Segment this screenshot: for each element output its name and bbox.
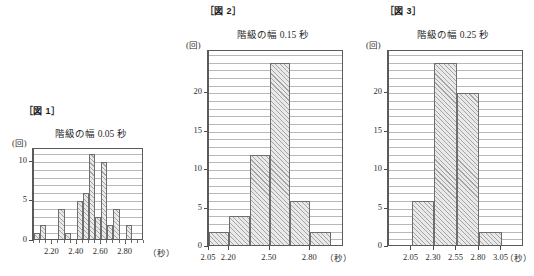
x-axis-tick (208, 246, 209, 250)
x-axis-minor-tick (76, 240, 77, 243)
x-axis-tick (433, 246, 434, 250)
x-axis-tick-label: 2.50 (253, 252, 285, 262)
histogram-bar (290, 201, 310, 246)
y-axis-tick-label: 0 (5, 234, 27, 244)
figure-2-y-unit: (回) (186, 38, 201, 50)
figure-1-x-unit: （秒） (148, 246, 175, 258)
histogram-bar (270, 63, 290, 246)
y-axis-tick-label: 5 (360, 202, 382, 212)
histogram-bar (40, 225, 46, 240)
figure-2-plot (208, 50, 343, 246)
x-axis-minor-tick (33, 240, 34, 243)
gridline (389, 55, 522, 56)
gridline (34, 154, 142, 155)
gridline (34, 185, 142, 186)
x-axis-tick (478, 246, 479, 250)
x-axis-minor-tick (100, 240, 101, 243)
figure-1-label: ［図 1］ (24, 104, 60, 117)
y-axis-line (207, 50, 208, 246)
histogram-bar (250, 155, 270, 246)
x-axis-minor-tick (131, 240, 132, 243)
figure-3-plot (388, 50, 523, 246)
x-axis-tick (228, 246, 229, 250)
histogram-bar (126, 225, 132, 240)
gridline (34, 178, 142, 179)
x-axis-minor-tick (112, 240, 113, 243)
figure-1-plot (33, 148, 143, 240)
histogram-bar (310, 232, 330, 246)
x-axis-minor-tick (39, 240, 40, 243)
x-axis-tick-label: 3.05 (485, 252, 517, 262)
x-axis-tick (269, 246, 270, 250)
x-axis-tick (455, 246, 456, 250)
y-axis-tick-label: 0 (180, 240, 202, 250)
figure-2-title: 階級の幅 0.15 秒 (203, 27, 343, 41)
histogram-bar (412, 201, 435, 246)
figure-1-plot-area: 05102.202.402.602.80 (33, 148, 143, 240)
x-axis-tick-label: 2.20 (212, 252, 244, 262)
y-axis-tick-label: 5 (5, 194, 27, 204)
x-axis-minor-tick (70, 240, 71, 243)
y-axis-tick-label: 15 (360, 125, 382, 135)
x-axis-minor-tick (137, 240, 138, 243)
x-axis-tick-label: 2.80 (293, 252, 325, 262)
x-axis-minor-tick (64, 240, 65, 243)
histogram-bar (209, 232, 229, 246)
figure-2-x-unit: （秒） (325, 251, 352, 263)
histogram-bar (434, 63, 457, 246)
y-axis-tick-label: 20 (360, 86, 382, 96)
figure-1-title: 階級の幅 0.05 秒 (26, 126, 156, 140)
histogram-bar (65, 233, 71, 240)
y-axis-tick-label: 10 (180, 163, 202, 173)
x-axis-minor-tick (143, 240, 144, 243)
y-axis-line (32, 148, 33, 240)
gridline (34, 170, 142, 171)
y-axis-tick-label: 0 (360, 240, 382, 250)
figure-2-plot-area: 051015202.052.202.502.80 (208, 50, 343, 246)
y-axis-tick-label: 20 (180, 86, 202, 96)
figure-2-label: ［図 2］ (205, 4, 241, 17)
histogram-bar (457, 93, 480, 246)
figure-3-label: ［図 3］ (385, 4, 421, 17)
histogram-bar (113, 209, 119, 240)
x-axis-minor-tick (106, 240, 107, 243)
x-axis-tick (309, 246, 310, 250)
x-axis-tick (410, 246, 411, 250)
x-axis-tick (500, 246, 501, 250)
x-axis-tick-label: 2.80 (109, 246, 141, 256)
figure-3-plot-area: 051015202.052.302.552.803.05 (388, 50, 523, 246)
figure-3-title: 階級の幅 0.25 秒 (383, 27, 523, 41)
x-axis-minor-tick (57, 240, 58, 243)
histogram-bar (479, 232, 502, 246)
figure-1-y-unit: (回) (12, 136, 27, 148)
y-axis-line (387, 50, 388, 246)
y-axis-tick-label: 10 (360, 163, 382, 173)
gridline (34, 162, 142, 163)
x-axis-minor-tick (88, 240, 89, 243)
histogram-bar (229, 216, 249, 246)
x-axis-minor-tick (94, 240, 95, 243)
y-axis-tick-label: 5 (180, 202, 202, 212)
y-axis-tick (384, 246, 388, 247)
x-axis-minor-tick (125, 240, 126, 243)
y-axis-tick-label: 15 (180, 125, 202, 135)
x-axis-minor-tick (119, 240, 120, 243)
x-axis-minor-tick (51, 240, 52, 243)
gridline (209, 55, 342, 56)
x-axis-minor-tick (45, 240, 46, 243)
y-axis-tick-label: 10 (5, 155, 27, 165)
figure-3-y-unit: (回) (366, 38, 381, 50)
x-axis-minor-tick (82, 240, 83, 243)
